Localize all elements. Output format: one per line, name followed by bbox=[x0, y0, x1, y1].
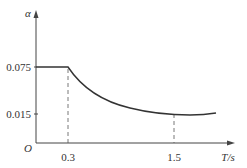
y-axis-label: α bbox=[25, 7, 31, 19]
origin-label: O bbox=[24, 142, 32, 154]
y-tick-label-0.015: 0.015 bbox=[6, 108, 31, 120]
y-tick-label-0.075: 0.075 bbox=[6, 61, 31, 73]
response-curve bbox=[36, 67, 216, 115]
x-tick-label-1.5: 1.5 bbox=[167, 151, 181, 163]
x-axis-label: T/s bbox=[221, 151, 234, 163]
chart: α 0.075 0.015 O 0.3 1.5 T/s bbox=[0, 0, 247, 168]
x-tick-label-0.3: 0.3 bbox=[61, 151, 75, 163]
x-axis-arrow-icon bbox=[227, 141, 235, 146]
y-axis-arrow-icon bbox=[34, 10, 39, 18]
